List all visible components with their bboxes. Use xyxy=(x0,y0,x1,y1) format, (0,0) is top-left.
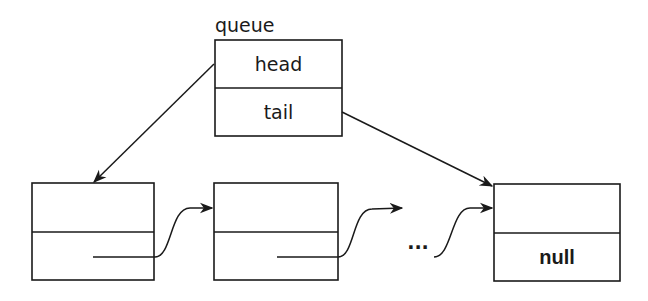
node-3-next-value: null xyxy=(494,233,620,281)
queue-label: queue xyxy=(215,16,275,35)
queue-head-field: head xyxy=(215,40,342,88)
head-pointer-arrow xyxy=(94,64,214,182)
node-3-incoming-arrow xyxy=(434,208,492,257)
ellipsis: ... xyxy=(400,230,436,254)
tail-pointer-arrow xyxy=(342,112,492,186)
queue-tail-field: tail xyxy=(215,88,342,136)
